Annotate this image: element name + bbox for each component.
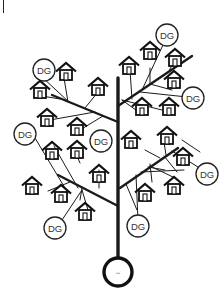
feeder-line [82, 190, 88, 210]
house-door-icon [172, 187, 176, 194]
house-door-icon [45, 119, 49, 126]
house-icon [56, 63, 76, 80]
dg-unit: DG [33, 59, 55, 81]
house-icon [88, 78, 108, 95]
house-door-icon [143, 194, 147, 201]
dg-label: DG [131, 221, 145, 232]
house-door-icon [50, 152, 54, 159]
house-icon [37, 109, 57, 126]
house-icon [30, 81, 50, 98]
house-door-icon [173, 59, 177, 66]
dg-label: DG [94, 136, 108, 147]
house-icon [135, 184, 155, 201]
house-door-icon [140, 108, 144, 115]
generator: ~ [104, 258, 132, 286]
dg-unit: DG [196, 163, 218, 185]
house-door-icon [96, 88, 100, 95]
house-icon [164, 177, 184, 194]
microgrid-tree-diagram: DGDGDGDGDGDGDGDG ~ [0, 0, 224, 303]
house-icon [42, 142, 62, 159]
house-icon [159, 98, 179, 115]
house-door-icon [64, 73, 68, 80]
generator-label: ~ [115, 269, 120, 276]
house-door-icon [181, 158, 185, 165]
house-icon [67, 118, 87, 135]
house-icon [119, 57, 139, 74]
house-icon [157, 127, 177, 144]
house-door-icon [129, 141, 133, 148]
house-icon [140, 42, 160, 59]
house-door-icon [83, 213, 87, 220]
house-door-icon [75, 151, 79, 158]
dg-label: DG [200, 169, 214, 180]
house-door-icon [75, 128, 79, 135]
house-icon [51, 185, 71, 202]
house-door-icon [38, 91, 42, 98]
house-door-icon [97, 175, 101, 182]
house-icon [67, 141, 87, 158]
house-door-icon [30, 187, 34, 194]
house-icon [121, 131, 141, 148]
house-door-icon [127, 67, 131, 74]
house-icon [89, 165, 109, 182]
house-door-icon [165, 137, 169, 144]
house-icon [22, 177, 42, 194]
house-icon [75, 203, 95, 220]
feeder-line [136, 175, 138, 220]
feeder-line [164, 156, 177, 172]
dg-units: DGDGDGDGDGDGDGDG [14, 24, 218, 239]
feeder-line [150, 166, 175, 178]
dg-label: DG [160, 30, 174, 41]
house-door-icon [167, 108, 171, 115]
dg-unit: DG [127, 215, 149, 237]
house-door-icon [172, 81, 176, 88]
dg-label: DG [18, 129, 32, 140]
feeder-line [126, 184, 137, 210]
dg-label: DG [48, 223, 62, 234]
house-door-icon [59, 195, 63, 202]
dg-unit: DG [90, 130, 112, 152]
dg-unit: DG [14, 123, 36, 145]
feeder-line [145, 150, 160, 158]
dg-unit: DG [182, 87, 204, 109]
dg-unit: DG [44, 217, 66, 239]
dg-label: DG [37, 65, 51, 76]
dg-unit: DG [156, 24, 178, 46]
feeder-line [140, 92, 187, 97]
dg-label: DG [186, 93, 200, 104]
house-door-icon [148, 52, 152, 59]
